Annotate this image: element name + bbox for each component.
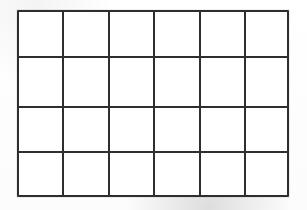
grid-cell-r2-c2[interactable]	[64, 58, 108, 106]
grid-cell-r1-c3[interactable]	[110, 12, 153, 56]
grid-cell-r4-c6[interactable]	[246, 153, 287, 195]
grid-cell-r3-c1[interactable]	[19, 108, 62, 151]
grid-cell-r1-c2[interactable]	[64, 12, 108, 56]
grid-cell-r4-c5[interactable]	[201, 153, 244, 195]
grid-cell-r3-c2[interactable]	[64, 108, 108, 151]
grid-cell-r3-c4[interactable]	[155, 108, 199, 151]
grid-cell-r4-c4[interactable]	[155, 153, 199, 195]
grid-cell-r3-c5[interactable]	[201, 108, 244, 151]
grid-cell-r1-c5[interactable]	[201, 12, 244, 56]
grid-cell-r3-c3[interactable]	[110, 108, 153, 151]
grid-cell-r4-c3[interactable]	[110, 153, 153, 195]
grid-cell-r4-c1[interactable]	[19, 153, 62, 195]
grid-cell-r1-c1[interactable]	[19, 12, 62, 56]
page-canvas	[0, 0, 307, 210]
grid-cell-r1-c6[interactable]	[246, 12, 287, 56]
grid-cell-r1-c4[interactable]	[155, 12, 199, 56]
grid-cell-r3-c6[interactable]	[246, 108, 287, 151]
grid-cell-r2-c5[interactable]	[201, 58, 244, 106]
grid-cell-r2-c1[interactable]	[19, 58, 62, 106]
grid-cell-r2-c4[interactable]	[155, 58, 199, 106]
grid-cell-r4-c2[interactable]	[64, 153, 108, 195]
grid-cell-r2-c6[interactable]	[246, 58, 287, 106]
grid-cell-r2-c3[interactable]	[110, 58, 153, 106]
grid-table	[17, 10, 289, 197]
